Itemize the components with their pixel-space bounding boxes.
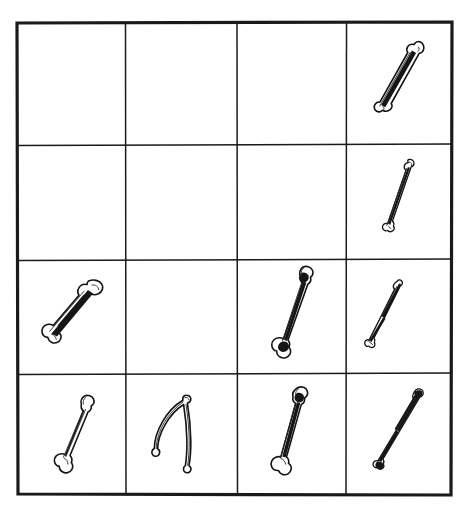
grid-row-1 bbox=[17, 23, 451, 145]
cell-r4c4-hit[interactable] bbox=[347, 375, 451, 494]
cell-r4c1-hit[interactable] bbox=[18, 375, 125, 494]
grid-vline-3 bbox=[346, 23, 347, 495]
cell-r1c1-empty[interactable] bbox=[17, 23, 125, 145]
cell-r3c4-bone[interactable] bbox=[347, 261, 451, 373]
cell-r1c2-empty[interactable] bbox=[126, 23, 237, 145]
cell-r3c2-empty[interactable] bbox=[126, 261, 237, 373]
cell-r4c2-wishbone[interactable] bbox=[126, 375, 237, 494]
grid-row-4 bbox=[18, 375, 451, 494]
cell-r1c3-empty[interactable] bbox=[238, 23, 346, 145]
grid-row-3 bbox=[18, 261, 451, 373]
figure-canvas bbox=[0, 0, 472, 514]
grid-vline-1 bbox=[126, 23, 127, 495]
bone-shading-bottom-end bbox=[375, 461, 383, 469]
cell-r3c3-bone[interactable] bbox=[238, 261, 346, 373]
grid-row-2 bbox=[17, 146, 451, 259]
cell-r2c4-bone[interactable] bbox=[347, 146, 451, 259]
cell-r2c2-empty[interactable] bbox=[126, 146, 237, 259]
cell-r2c1-empty[interactable] bbox=[17, 146, 125, 259]
cell-r1c4-bone[interactable] bbox=[347, 23, 451, 145]
cell-r4c1-bone[interactable] bbox=[18, 375, 125, 494]
cell-r3c4-hit[interactable] bbox=[347, 261, 451, 373]
cell-r4c3-bone[interactable] bbox=[238, 375, 346, 494]
cell-r4c2-hit[interactable] bbox=[126, 375, 237, 494]
grid-vline-2 bbox=[237, 23, 238, 495]
cell-r3c1-bone[interactable] bbox=[18, 261, 125, 373]
cell-r4c4-bone[interactable] bbox=[347, 375, 451, 494]
bone-grid-figure bbox=[0, 0, 472, 514]
cell-r2c3-empty[interactable] bbox=[238, 146, 346, 259]
